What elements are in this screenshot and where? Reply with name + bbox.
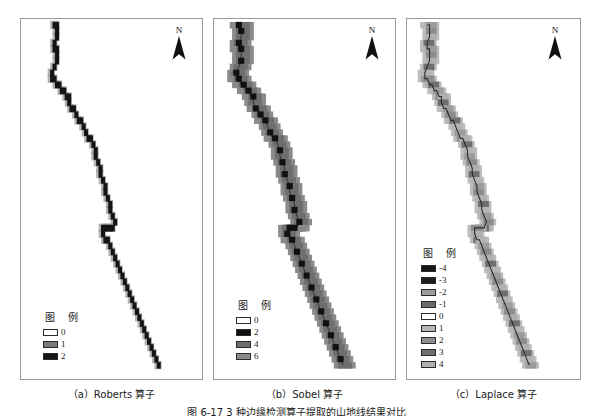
legend-swatch (421, 289, 436, 296)
legend-swatch (236, 341, 251, 348)
legend-swatch (43, 329, 58, 336)
legend-label: 2 (61, 352, 66, 361)
legend-label: 0 (254, 316, 259, 325)
legend-swatch (43, 341, 58, 348)
legend-swatch (236, 329, 251, 336)
legend-swatch (421, 337, 436, 344)
map-panel-roberts: N 图 例 0 1 2 (20, 18, 203, 380)
legend-label: 0 (61, 328, 66, 337)
legend-swatch (421, 349, 436, 356)
legend-label: -2 (439, 288, 447, 297)
legend-item: 0 (43, 327, 83, 338)
legend-item: 3 (421, 347, 461, 358)
legend-swatch (43, 353, 58, 360)
legend-label: -1 (439, 300, 447, 309)
legend-item: 2 (43, 351, 83, 362)
legend-item: -4 (421, 263, 461, 274)
legend-swatch (421, 313, 436, 320)
legend-swatch (421, 301, 436, 308)
subcaption-sobel: （b）Sobel 算子 (213, 386, 396, 401)
legend-label: 6 (254, 352, 259, 361)
legend-label: 3 (439, 348, 444, 357)
legend-swatch (236, 353, 251, 360)
legend-swatch (236, 317, 251, 324)
map-panel-sobel: N 图 例 0 2 4 6 (213, 18, 396, 380)
legend-item: -1 (421, 299, 461, 310)
legend-item: 0 (421, 311, 461, 322)
legend-swatch (421, 265, 436, 272)
legend-label: 2 (254, 328, 259, 337)
figure-container: N 图 例 0 1 2 N (0, 0, 593, 416)
legend-label: 0 (439, 312, 444, 321)
legend-label: 4 (439, 360, 444, 369)
legend-swatch (421, 277, 436, 284)
legend-item: -3 (421, 275, 461, 286)
legend-item: 4 (236, 339, 276, 350)
legend-label: -3 (439, 276, 447, 285)
legend-label: 4 (254, 340, 259, 349)
legend-item: 4 (421, 359, 461, 370)
legend-item: 2 (236, 327, 276, 338)
legend-laplace: 图 例 -4 -3 -2 -1 0 1 (421, 245, 461, 371)
legend-label: 1 (439, 324, 444, 333)
subcaption-laplace: （c）Laplace 算子 (406, 386, 581, 401)
legend-item: 0 (236, 315, 276, 326)
subcaption-roberts: （a）Roberts 算子 (20, 386, 203, 401)
legend-roberts: 图 例 0 1 2 (43, 309, 83, 363)
map-panel-laplace: N 图 例 -4 -3 -2 -1 (406, 18, 581, 380)
legend-title: 图 例 (238, 297, 276, 312)
legend-item: 1 (421, 323, 461, 334)
legend-swatch (421, 325, 436, 332)
legend-label: -4 (439, 264, 447, 273)
legend-swatch (421, 361, 436, 368)
legend-item: 2 (421, 335, 461, 346)
legend-item: 6 (236, 351, 276, 362)
legend-title: 图 例 (45, 309, 83, 324)
legend-item: 1 (43, 339, 83, 350)
figure-caption: 图 6-17 3 种边缘检测算子提取的山地线结果对比 (0, 404, 593, 416)
legend-item: -2 (421, 287, 461, 298)
legend-label: 2 (439, 336, 444, 345)
legend-sobel: 图 例 0 2 4 6 (236, 297, 276, 363)
legend-label: 1 (61, 340, 66, 349)
legend-title: 图 例 (423, 245, 461, 260)
